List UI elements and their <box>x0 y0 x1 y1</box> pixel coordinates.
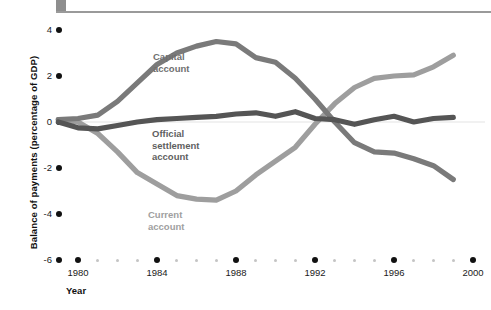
official-label-line-1: Official <box>152 128 200 140</box>
capital-label-line-2: account <box>153 63 189 75</box>
capital-label-line-1: Capital <box>153 51 189 63</box>
current-label-line-2: account <box>148 221 184 233</box>
series-line-official-settlement-account <box>58 112 453 129</box>
series-label-capital-account: Capital account <box>153 51 189 74</box>
official-label-line-3: account <box>152 151 200 163</box>
official-label-line-2: settlement <box>152 140 200 152</box>
balance-of-payments-chart: Balance of payments (percentage of GDP) … <box>0 0 491 310</box>
series-label-current-account: Current account <box>148 209 184 232</box>
plot-area <box>0 0 491 310</box>
current-label-line-1: Current <box>148 209 184 221</box>
series-label-official-settlement-account: Official settlement account <box>152 128 200 163</box>
